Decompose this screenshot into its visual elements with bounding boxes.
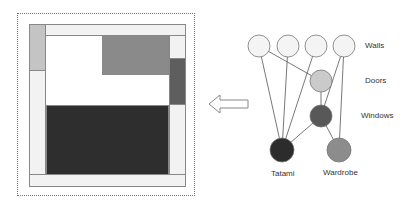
- node-window: [310, 105, 332, 127]
- graph-nodes: [248, 35, 355, 162]
- edge-wall4-wardrobe: [339, 46, 344, 150]
- node-door: [310, 70, 332, 92]
- node-wardrobe: [327, 138, 351, 162]
- node-wall3: [305, 35, 327, 57]
- label-windows: Windows: [361, 111, 393, 120]
- label-doors: Doors: [365, 76, 386, 85]
- label-tatami: Tatami: [271, 169, 295, 178]
- graph-edges: [259, 46, 344, 150]
- node-wall4: [333, 35, 355, 57]
- label-walls: Walls: [365, 41, 384, 50]
- arrow-left-icon: [209, 95, 248, 113]
- edge-wall1-tatami: [259, 46, 282, 150]
- node-wall1: [248, 35, 270, 57]
- node-tatami: [270, 138, 294, 162]
- label-wardrobe: Wardrobe: [323, 168, 358, 177]
- node-wall2: [277, 35, 299, 57]
